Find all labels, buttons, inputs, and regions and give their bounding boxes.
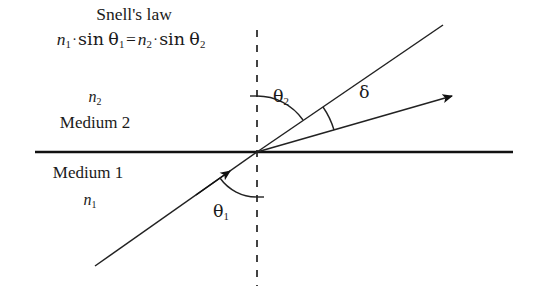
- theta2-subscript: 2: [284, 95, 289, 107]
- theta2-glyph: θ: [273, 86, 284, 106]
- formula-theta1-symbol: θ: [108, 29, 119, 49]
- n1-symbol: n: [84, 191, 92, 208]
- medium-1-label: Medium 1: [0, 164, 176, 181]
- formula-sin-1: sin: [78, 29, 104, 49]
- formula-theta2-symbol: θ: [189, 29, 200, 49]
- formula-equals-sign: =: [124, 29, 137, 49]
- theta1-glyph: θ: [213, 201, 224, 221]
- figure-title: Snell's law: [0, 6, 268, 24]
- theta1-angle-label: θ1: [213, 203, 229, 221]
- snells-law-figure: Snell's law n1·sin θ1=n2·sin θ2 n2 Mediu…: [0, 0, 533, 294]
- formula-sin-2: sin: [159, 29, 185, 49]
- refractive-index-n1-label: n1: [0, 192, 180, 208]
- n1-subscript: 1: [92, 199, 97, 210]
- n2-symbol: n: [89, 88, 97, 105]
- delta-glyph: δ: [359, 82, 370, 102]
- refractive-index-n2-label: n2: [0, 89, 190, 105]
- theta1-arc: [220, 178, 257, 197]
- formula-theta2-subscript: 2: [200, 38, 205, 50]
- delta-arc: [323, 107, 334, 130]
- medium-2-label: Medium 2: [0, 114, 190, 131]
- theta2-angle-label: θ2: [273, 88, 289, 106]
- delta-angle-label: δ: [359, 84, 370, 102]
- theta1-subscript: 1: [224, 210, 229, 222]
- snells-law-formula: n1·sin θ1=n2·sin θ2: [0, 31, 262, 49]
- n2-subscript: 2: [97, 96, 102, 107]
